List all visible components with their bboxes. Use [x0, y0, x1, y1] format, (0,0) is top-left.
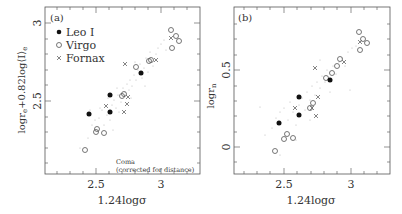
- legend-virgo-label: Virgo: [65, 39, 97, 52]
- panel-b-ytick-0: 0: [220, 144, 233, 151]
- panel-b-ytick-0.5: 0.5: [220, 61, 233, 79]
- panel-a: 2.5 3 1.24logσ 3 2.5 logre+0.82log⟨I⟩e (…: [16, 7, 200, 207]
- panel-b-coma-dots: [260, 46, 357, 156]
- panel-a-leo-points: [87, 71, 144, 117]
- panel-a-ytick-3: 3: [31, 20, 44, 27]
- panel-b-label: (b): [238, 12, 252, 23]
- panel-b: 2.5 3 1.24logσ 0.5 0 logrn (b): [205, 7, 390, 207]
- legend-leo-marker: [57, 30, 62, 35]
- figure: 2.5 3 1.24logσ 3 2.5 logre+0.82log⟨I⟩e (…: [0, 0, 402, 214]
- panel-a-ylabel: logre+0.82log⟨I⟩e: [16, 47, 29, 134]
- legend-leo-label: Leo I: [66, 26, 94, 39]
- panel-a-xtick-2.5: 2.5: [87, 178, 105, 191]
- panel-b-ticks: [234, 7, 390, 174]
- legend-fornax-label: Fornax: [66, 52, 106, 65]
- panel-b-xtick-2.5: 2.5: [275, 178, 293, 191]
- panel-a-xlabel: 1.24logσ: [97, 194, 147, 207]
- annotation-corrected: (corrected for distance): [116, 166, 195, 174]
- panel-b-ylabel: logrn: [205, 83, 218, 108]
- legend: Leo I Virgo Fornax: [57, 26, 106, 65]
- legend-fornax-marker: [57, 56, 61, 60]
- panel-b-frame: [234, 7, 390, 174]
- panel-b-xtick-3: 3: [348, 178, 355, 191]
- panel-a-virgo-points: [83, 28, 182, 153]
- panel-b-leo-points: [277, 78, 333, 126]
- annotation-coma: Coma: [116, 158, 135, 166]
- panel-b-xlabel: 1.24logσ: [286, 194, 336, 207]
- panel-b-fornax-points: [293, 40, 362, 118]
- panel-a-xtick-3: 3: [158, 178, 165, 191]
- panel-a-label: (a): [50, 12, 64, 23]
- panel-b-virgo-points: [273, 30, 370, 154]
- panel-a-ytick-2.5: 2.5: [31, 92, 44, 110]
- panel-a-fornax-points: [104, 36, 173, 114]
- legend-virgo-marker: [57, 43, 62, 48]
